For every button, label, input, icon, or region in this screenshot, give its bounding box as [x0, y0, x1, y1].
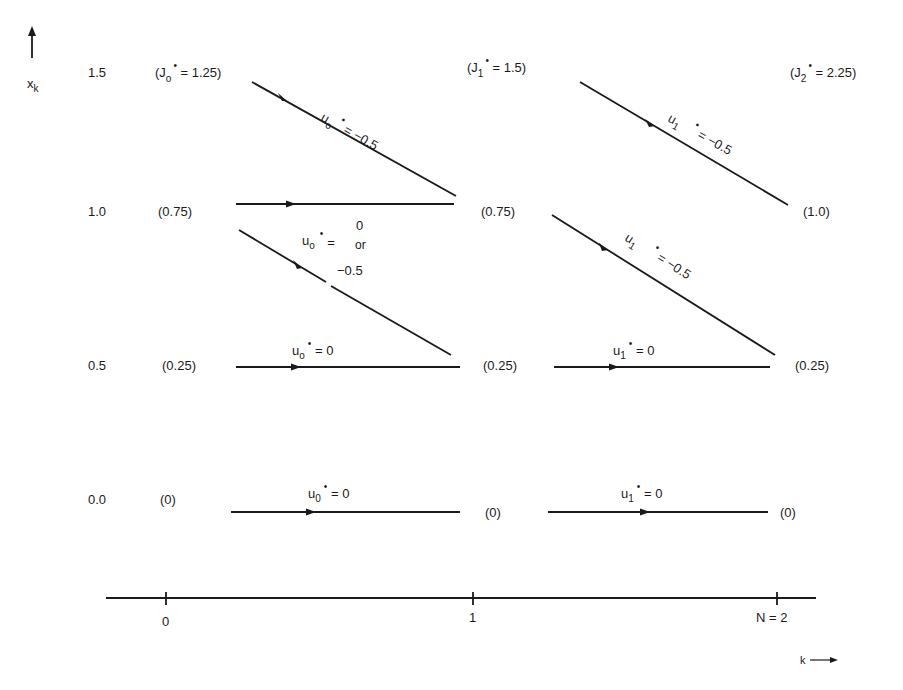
direction-arrow-icon [640, 509, 650, 516]
stage2-cost-1-0: (1.0) [803, 204, 830, 219]
trajectory-k1-1-0-to-0-5 [552, 215, 775, 355]
x-tick-0: 0 [162, 614, 169, 629]
control-label-u0-mid-v2: −0.5 [337, 263, 363, 278]
stage0-cost-1-0: (0.75) [158, 204, 192, 219]
stage1-trajectories: u1• = −0.5 u1• = −0.5 u1• = 0 u1• = 0 [548, 82, 788, 516]
x-axis: 0 1 N = 2 k [106, 592, 838, 666]
control-label-u0-zero: u0• = 0 [308, 481, 349, 504]
cost-header-j0: (Jo• = 1.25) [155, 60, 221, 84]
stage1-cost-0-0: (0) [485, 505, 501, 520]
control-label-u0-mid-v1: 0 [356, 218, 363, 233]
control-label-u1-mid: u1• = −0.5 [621, 226, 697, 285]
x-tick-n2: N = 2 [756, 610, 787, 625]
trajectory-diagram: xk 1.5 1.0 0.5 0.0 (Jo• = 1.25) (J1• = 1… [0, 0, 903, 690]
y-tick-1-0: 1.0 [88, 204, 106, 219]
cost-header-j1: (J1• = 1.5) [467, 55, 526, 79]
control-label-u0-top: uo• = −0.5 [317, 105, 383, 156]
stage0-cost-0-5: (0.25) [162, 358, 196, 373]
direction-arrow-icon [599, 243, 608, 251]
stage0-trajectories: uo• = −0.5 uo•= 0 or −0.5 uo• = 0 u0• = … [231, 82, 460, 516]
control-label-u0-half: uo• = 0 [292, 338, 333, 361]
y-tick-0-0: 0.0 [88, 492, 106, 507]
y-tick-1-5: 1.5 [88, 65, 106, 80]
y-axis-label: xk [27, 76, 40, 94]
control-label-u0-mid-or: or [355, 238, 366, 252]
trajectory-k0-1-0-to-0-5 [239, 230, 326, 282]
stage0-cost-0-0: (0) [160, 492, 176, 507]
control-label-u0-mid: uo•= [302, 228, 335, 251]
control-label-u1-zero: u1• = 0 [621, 481, 662, 504]
direction-arrow-icon [291, 364, 301, 371]
direction-arrow-icon [286, 201, 296, 208]
stage2-cost-0-0: (0) [780, 505, 796, 520]
trajectory-k1-1-5-to-1-0 [580, 82, 788, 205]
x-axis-arrowhead-icon [830, 657, 838, 663]
y-axis: xk 1.5 1.0 0.5 0.0 [27, 26, 106, 507]
control-label-u1-half: u1• = 0 [613, 338, 654, 361]
cost-header-j2: (J2• = 2.25) [790, 60, 856, 84]
stage1-cost-1-0: (0.75) [481, 204, 515, 219]
direction-arrow-icon [609, 364, 619, 371]
x-axis-label: k [800, 654, 806, 666]
y-axis-arrowhead-icon [28, 26, 36, 36]
direction-arrow-icon [306, 509, 316, 516]
direction-arrow-icon [645, 119, 655, 127]
x-tick-1: 1 [469, 610, 476, 625]
stage1-cost-0-5: (0.25) [483, 358, 517, 373]
y-tick-0-5: 0.5 [88, 358, 106, 373]
stage2-cost-0-5: (0.25) [795, 358, 829, 373]
direction-arrow-icon [293, 260, 302, 269]
